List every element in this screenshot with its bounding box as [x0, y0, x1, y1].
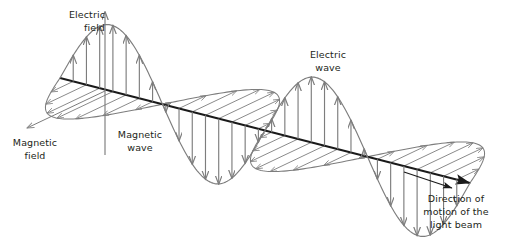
magnetic-wave-label: Magnetic wave [104, 128, 176, 154]
magnetic-field-axis-label: Magnetic field [0, 136, 70, 162]
label-leader-lines [404, 172, 452, 188]
propagation-direction-label: Direction of motion of the light beam [408, 192, 504, 231]
electric-field-axis-label: Electric field [30, 8, 105, 34]
em-wave-diagram: Electric field Magnetic field Magnetic w… [0, 0, 505, 245]
electric-wave-label: Electric wave [292, 48, 364, 74]
